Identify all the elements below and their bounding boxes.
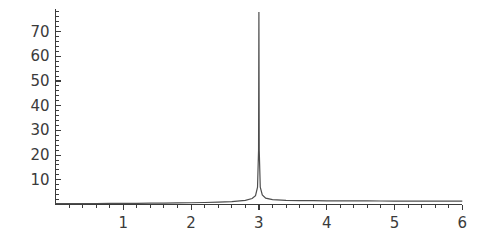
y-tick-label: 10 [30, 172, 49, 187]
y-tick-label: 30 [30, 123, 49, 138]
y-tick-label: 50 [30, 74, 49, 89]
data-series-line [56, 12, 463, 204]
x-tick-label: 5 [390, 216, 400, 231]
y-tick-label: 40 [30, 98, 49, 113]
plot-canvas [0, 0, 487, 238]
data-series-group [56, 12, 463, 204]
y-tick-label: 60 [30, 49, 49, 64]
x-tick-label: 6 [458, 216, 468, 231]
y-tick-label: 20 [30, 148, 49, 163]
x-tick-label: 1 [119, 216, 129, 231]
y-tick-label: 70 [30, 24, 49, 39]
chart-figure: 10203040506070 123456 [0, 0, 487, 238]
x-tick-label: 4 [322, 216, 332, 231]
x-tick-label: 2 [186, 216, 196, 231]
x-tick-label: 3 [254, 216, 264, 231]
